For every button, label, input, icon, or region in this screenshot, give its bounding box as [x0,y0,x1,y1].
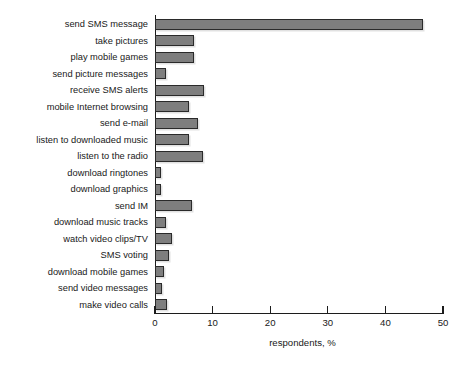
x-axis-title: respondents, % [0,337,463,348]
category-label: download graphics [0,181,151,198]
x-tick [154,306,155,314]
bar [155,151,203,162]
bar-row [155,165,443,182]
category-label: send video messages [0,280,151,297]
bar-row [155,33,443,50]
category-label: download music tracks [0,214,151,231]
bar [155,217,166,228]
x-tick-label: 20 [265,317,276,328]
bar [155,167,161,178]
category-label: SMS voting [0,247,151,264]
x-tick [385,306,386,314]
bar [155,19,423,30]
bar-chart: send SMS messagetake picturesplay mobile… [0,0,463,366]
bar [155,118,198,129]
bar-row [155,264,443,281]
bar-row [155,181,443,198]
category-label: listen to downloaded music [0,132,151,149]
bar [155,68,166,79]
category-label: download ringtones [0,165,151,182]
bar [155,35,194,46]
category-label: take pictures [0,33,151,50]
bar [155,250,169,261]
bar-row [155,297,443,314]
bar [155,266,164,277]
bar-row [155,148,443,165]
bar-row [155,280,443,297]
bar-row [155,49,443,66]
category-label: send SMS message [0,16,151,33]
bar-row [155,214,443,231]
bar-row [155,115,443,132]
x-tick [212,306,213,314]
x-axis-line [155,313,444,314]
bar-row [155,198,443,215]
plot-area [155,16,443,313]
x-tick [270,306,271,314]
bar-row [155,16,443,33]
bar-row [155,231,443,248]
bar [155,200,192,211]
category-label: receive SMS alerts [0,82,151,99]
bar [155,101,189,112]
x-tick-label: 40 [380,317,391,328]
bar [155,184,161,195]
bar-rows [155,16,443,313]
bar-row [155,132,443,149]
x-tick-label: 0 [152,317,157,328]
bar [155,283,162,294]
category-label: send e-mail [0,115,151,132]
bar [155,85,204,96]
x-tick [442,306,443,314]
x-axis-title-text: respondents, % [269,337,336,348]
category-label: play mobile games [0,49,151,66]
bar-row [155,66,443,83]
x-tick-label: 10 [207,317,218,328]
category-label: send picture messages [0,66,151,83]
category-label: listen to the radio [0,148,151,165]
category-label: send IM [0,198,151,215]
x-tick-label: 30 [322,317,333,328]
bar [155,299,167,310]
bar [155,52,194,63]
bar-row [155,99,443,116]
category-label: mobile Internet browsing [0,99,151,116]
bar-row [155,247,443,264]
x-tick-label: 50 [438,317,449,328]
bar [155,134,189,145]
bar [155,233,172,244]
category-label: make video calls [0,297,151,314]
bar-row [155,82,443,99]
category-axis-labels: send SMS messagetake picturesplay mobile… [0,16,151,313]
category-label: download mobile games [0,264,151,281]
x-tick [327,306,328,314]
category-label: watch video clips/TV [0,231,151,248]
